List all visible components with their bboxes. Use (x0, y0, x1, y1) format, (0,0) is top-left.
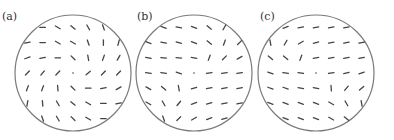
orientation-mark (86, 102, 91, 105)
orientation-mark (40, 57, 45, 58)
orientation-mark (268, 87, 273, 89)
orientation-mark (207, 26, 211, 30)
orientation-mark (313, 42, 318, 43)
orientation-mark (116, 103, 121, 104)
orientation-mark (283, 56, 287, 60)
orientation-mark (344, 72, 349, 73)
orientation-mark (161, 26, 166, 28)
orientation-mark (237, 88, 242, 89)
orientation-mark (359, 86, 363, 90)
orientation-mark (101, 88, 106, 89)
orientation-mark (176, 72, 181, 74)
orientation-mark (178, 85, 179, 90)
orientation-mark (222, 88, 227, 89)
orientation-mark (41, 71, 45, 75)
orientation-mark (161, 73, 166, 74)
orientation-mark (191, 102, 196, 104)
center-dot (315, 72, 317, 74)
orientation-mark (284, 40, 287, 45)
orientation-mark (298, 102, 303, 104)
orientation-mark (42, 116, 44, 121)
orientation-mark (328, 73, 333, 74)
orientation-mark (146, 42, 151, 44)
orientation-mark (313, 102, 318, 104)
panel-b-label: (b) (137, 10, 153, 23)
orientation-mark (206, 88, 211, 89)
orientation-mark (300, 55, 302, 60)
orientation-mark (223, 40, 225, 45)
orientation-mark (237, 103, 242, 104)
orientation-mark (283, 87, 288, 89)
orientation-mark (71, 41, 76, 44)
orientation-mark (146, 87, 151, 90)
orientation-mark (102, 55, 104, 60)
orientation-mark (71, 26, 75, 30)
orientation-mark (237, 73, 242, 74)
orientation-mark (313, 57, 318, 58)
orientation-mark (56, 71, 60, 75)
orientation-mark (268, 72, 273, 74)
orientation-mark (268, 102, 273, 104)
orientation-mark (88, 55, 89, 60)
orientation-mark (222, 103, 227, 104)
orientation-mark (328, 42, 333, 43)
orientation-mark (176, 42, 181, 43)
orientation-mark (345, 86, 349, 90)
panel-b-orientation-marks (146, 25, 243, 121)
orientation-mark (283, 73, 288, 74)
orientation-mark (27, 101, 28, 106)
orientation-mark (344, 42, 349, 43)
orientation-mark (71, 86, 75, 90)
orientation-mark (207, 118, 212, 120)
orientation-mark (344, 57, 349, 58)
orientation-mark (102, 25, 104, 30)
orientation-mark (361, 101, 362, 106)
orientation-mark (270, 40, 271, 45)
orientation-mark (359, 42, 364, 43)
orientation-mark (56, 116, 59, 121)
orientation-mark (55, 41, 60, 44)
orientation-mark (163, 116, 165, 121)
center-dot (193, 72, 195, 74)
orientation-mark (283, 26, 288, 28)
orientation-mark (191, 87, 196, 88)
orientation-mark (237, 56, 242, 59)
orientation-mark (87, 25, 90, 30)
orientation-mark (207, 103, 212, 104)
center-dot (72, 72, 74, 74)
orientation-mark (222, 118, 227, 119)
orientation-mark (177, 101, 181, 105)
orientation-mark (223, 25, 226, 30)
orientation-mark (146, 73, 151, 74)
orientation-mark (146, 102, 151, 105)
orientation-mark (313, 88, 318, 89)
orientation-mark (25, 42, 30, 43)
panel-b: (b) (136, 10, 252, 131)
orientation-mark (55, 26, 60, 29)
orientation-mark (192, 117, 197, 120)
orientation-mark (176, 27, 181, 28)
orientation-mark (177, 117, 181, 121)
orientation-mark (208, 55, 210, 60)
orientation-mark (87, 40, 89, 45)
orientation-mark (25, 57, 30, 59)
panel-a-label: (a) (2, 10, 17, 23)
orientation-mark (329, 102, 334, 105)
orientation-mark (359, 57, 364, 58)
orientation-mark (56, 101, 59, 106)
orientation-mark (283, 102, 288, 104)
orientation-mark (101, 71, 105, 75)
orientation-mark (26, 86, 28, 91)
orientation-mark (191, 26, 196, 28)
orientation-mark (238, 41, 242, 45)
panel-c-label: (c) (260, 10, 275, 23)
panel-a: (a) (2, 10, 131, 131)
orientation-mark (71, 102, 75, 106)
orientation-mark (298, 118, 303, 120)
panel-c-orientation-marks (268, 26, 364, 120)
orientation-mark (86, 71, 90, 75)
orientation-mark (313, 27, 318, 28)
orientation-mark (117, 71, 121, 75)
orientation-mark (42, 86, 44, 91)
panel-c: (c) (258, 10, 374, 131)
